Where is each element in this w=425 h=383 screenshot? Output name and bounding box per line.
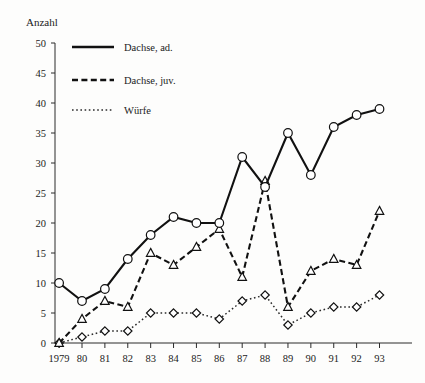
y-axis-tick-label: 45 xyxy=(36,68,47,79)
data-point-marker xyxy=(192,309,200,317)
data-point-marker xyxy=(146,309,154,317)
y-axis-title: Anzahl xyxy=(26,16,58,28)
data-point-marker xyxy=(78,333,86,341)
data-point-marker xyxy=(284,129,293,138)
data-point-marker xyxy=(329,123,338,132)
x-axis-tick-label: 91 xyxy=(328,353,339,364)
x-axis-tick-label: 86 xyxy=(214,353,225,364)
y-axis-tick-label: 10 xyxy=(36,278,47,289)
y-axis-title-label: Anzahl xyxy=(26,16,58,28)
data-point-marker xyxy=(307,266,315,274)
data-point-marker xyxy=(124,302,132,310)
x-axis-tick-label: 89 xyxy=(283,353,294,364)
data-point-marker xyxy=(123,255,132,264)
legend-item-label: Würfe xyxy=(124,105,151,116)
badger-population-line-chart: Anzahl 05101520253035404550 197980818283… xyxy=(0,0,425,383)
data-point-marker xyxy=(352,303,360,311)
x-axis: 19798081828384858687888990919293 xyxy=(49,343,412,364)
data-point-marker xyxy=(238,272,246,280)
y-axis-tick-label: 0 xyxy=(41,338,46,349)
data-point-marker xyxy=(101,296,109,304)
x-axis-tick-label: 92 xyxy=(351,353,362,364)
y-axis-tick-label: 5 xyxy=(41,308,46,319)
x-axis-tick-label: 90 xyxy=(306,353,317,364)
chart-container: Anzahl 05101520253035404550 197980818283… xyxy=(0,0,425,383)
y-axis-tick-label: 35 xyxy=(36,128,47,139)
data-point-marker xyxy=(330,303,338,311)
chart-legend: Dachse, ad.Dachse, juv.Würfe xyxy=(72,42,176,116)
data-point-marker xyxy=(307,171,316,180)
x-axis-tick-label: 85 xyxy=(191,353,202,364)
data-point-marker xyxy=(284,321,292,329)
x-axis-tick-label: 88 xyxy=(260,353,271,364)
data-point-marker xyxy=(192,242,200,250)
x-axis-tick-label: 1979 xyxy=(49,353,70,364)
y-axis: 05101520253035404550 xyxy=(36,38,56,349)
data-point-marker xyxy=(307,309,315,317)
x-axis-tick-label: 87 xyxy=(237,353,248,364)
legend-item-dachse-juv: Dachse, juv. xyxy=(72,75,176,86)
data-point-marker xyxy=(101,285,110,294)
data-point-marker xyxy=(101,327,109,335)
series-path xyxy=(59,109,379,301)
series-dachse-ad xyxy=(55,105,384,306)
data-series-group xyxy=(55,105,384,348)
data-point-marker xyxy=(192,219,201,228)
data-point-marker xyxy=(238,153,247,162)
data-point-marker xyxy=(146,248,154,256)
x-axis-tick-label: 83 xyxy=(145,353,156,364)
data-point-marker xyxy=(330,254,338,262)
data-point-marker xyxy=(215,219,224,228)
x-axis-tick-label: 81 xyxy=(100,353,111,364)
data-point-marker xyxy=(169,309,177,317)
data-point-marker xyxy=(375,291,383,299)
legend-item-dachse-ad: Dachse, ad. xyxy=(72,42,173,53)
data-point-marker xyxy=(261,291,269,299)
legend-item-wuerfe: Würfe xyxy=(72,105,151,116)
legend-item-label: Dachse, ad. xyxy=(124,42,173,53)
legend-item-label: Dachse, juv. xyxy=(124,75,176,86)
x-axis-tick-label: 82 xyxy=(123,353,134,364)
data-point-marker xyxy=(261,183,270,192)
data-point-marker xyxy=(352,111,361,120)
data-point-marker xyxy=(78,297,87,306)
x-axis-tick-label: 84 xyxy=(168,353,179,364)
y-axis-tick-label: 30 xyxy=(36,158,47,169)
y-axis-tick-label: 25 xyxy=(36,188,47,199)
y-axis-tick-label: 40 xyxy=(36,98,47,109)
data-point-marker xyxy=(375,206,383,214)
x-axis-tick-label: 80 xyxy=(77,353,88,364)
data-point-marker xyxy=(375,105,384,114)
y-axis-tick-label: 50 xyxy=(36,38,47,49)
x-axis-tick-label: 93 xyxy=(374,353,385,364)
y-axis-tick-label: 20 xyxy=(36,218,47,229)
y-axis-tick-label: 15 xyxy=(36,248,47,259)
data-point-marker xyxy=(169,213,178,222)
data-point-marker xyxy=(55,279,64,288)
data-point-marker xyxy=(124,327,132,335)
data-point-marker xyxy=(146,231,155,240)
